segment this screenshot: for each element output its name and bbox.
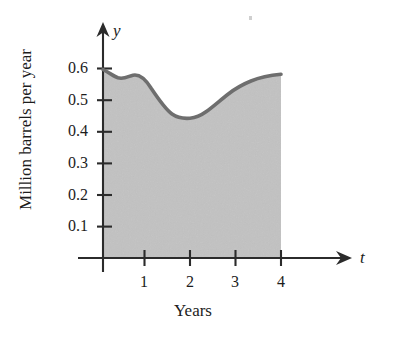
x-tick-label-3: 4 xyxy=(271,274,291,290)
x-tick-label-1: 2 xyxy=(180,274,200,290)
x-tick-label-0: 1 xyxy=(134,274,154,290)
y-axis-title-text: Million barrels per year xyxy=(17,49,34,210)
y-tick-label-4: 0.2 xyxy=(44,187,88,203)
x-tick-label-2: 3 xyxy=(225,274,245,290)
y-tick-label-3: 0.3 xyxy=(44,155,88,171)
area-fill xyxy=(100,60,286,260)
scan-artifact-speck xyxy=(249,16,252,20)
y-axis-symbol-label: y xyxy=(113,22,121,39)
y-tick-label-0: 0.6 xyxy=(44,60,88,76)
x-axis-symbol-label: t xyxy=(360,249,365,266)
y-tick-label-1: 0.5 xyxy=(44,92,88,108)
y-axis-title: Million barrels per year xyxy=(10,0,40,258)
y-tick-label-5: 0.1 xyxy=(44,218,88,234)
x-axis-title: Years xyxy=(143,302,243,319)
chart-figure: 0.6 0.5 0.4 0.3 0.2 0.1 1 2 3 4 y t Mill… xyxy=(0,0,393,339)
y-tick-label-2: 0.4 xyxy=(44,123,88,139)
